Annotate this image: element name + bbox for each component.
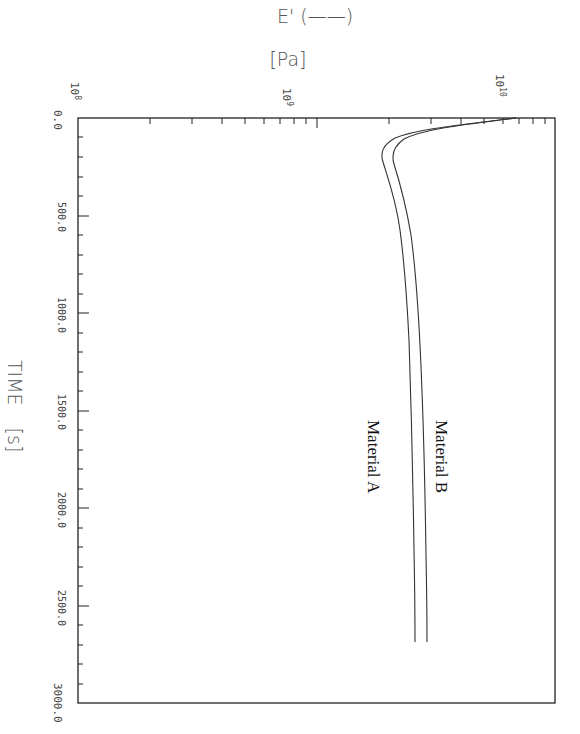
- label-material-b: Material B: [432, 420, 451, 493]
- top-ticks: [150, 118, 545, 128]
- modulus-time-chart: E' (——) [Pa] 108 109 1010: [0, 0, 580, 734]
- log-tick-labels: 108 109 1010: [68, 74, 507, 106]
- y-axis-title-line2: [Pa]: [269, 48, 306, 70]
- series-material-b: [393, 118, 516, 642]
- y-axis-title-line1: E' (——): [277, 5, 353, 27]
- tick-0: 0.0: [51, 110, 64, 130]
- label-material-a: Material A: [364, 420, 383, 494]
- tick-1000: 1000.0: [56, 297, 67, 333]
- time-tick-labels: 0.0 500.0 1000.0 1500.0 2000.0 2500.0 30…: [51, 110, 67, 723]
- tick-2500: 2500.0: [56, 590, 67, 626]
- tick-1500: 1500.0: [56, 394, 67, 430]
- series-material-a: [382, 118, 516, 642]
- tick-1e10: 1010: [493, 74, 507, 97]
- plot-frame: [78, 118, 555, 703]
- x-axis-title: TIME[s]: [4, 360, 26, 452]
- left-ticks: [78, 137, 89, 684]
- tick-3000: 3000.0: [51, 683, 64, 723]
- tick-1e8: 108: [68, 82, 82, 100]
- tick-2000: 2000.0: [56, 492, 67, 528]
- tick-1e9: 109: [280, 88, 294, 106]
- tick-500: 500.0: [56, 202, 67, 232]
